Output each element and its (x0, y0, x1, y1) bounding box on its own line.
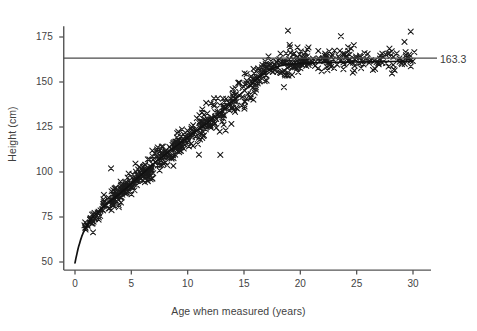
data-point-marker (278, 51, 283, 56)
data-point-marker (133, 161, 138, 166)
data-point-marker (295, 45, 300, 50)
data-point-marker (338, 34, 343, 39)
data-point-marker (91, 230, 96, 235)
x-tick-label: 30 (398, 278, 428, 289)
y-tick-label: 75 (23, 211, 53, 222)
data-point-marker (229, 121, 234, 126)
growth-curve-path (75, 61, 413, 263)
data-point-marker (109, 166, 114, 171)
data-point-marker (200, 107, 205, 112)
data-point-marker (223, 128, 228, 133)
x-tick-label: 20 (285, 278, 315, 289)
x-tick-label: 10 (173, 278, 203, 289)
data-point-marker (157, 168, 162, 173)
x-tick-label: 5 (116, 278, 146, 289)
data-point-marker (284, 51, 289, 56)
y-tick-label: 175 (23, 31, 53, 42)
x-tick-label: 0 (60, 278, 90, 289)
data-point-marker (319, 69, 324, 74)
data-point-marker (196, 152, 201, 157)
data-point-marker (218, 152, 223, 157)
y-tick-label: 150 (23, 76, 53, 87)
y-tick-label: 50 (23, 256, 53, 267)
data-point-marker (341, 67, 346, 72)
x-tick-label: 15 (229, 278, 259, 289)
growth-chart-figure: Height (cm) Age when measured (years) 16… (0, 0, 477, 331)
data-point-marker (386, 64, 391, 69)
data-point-marker (402, 39, 407, 44)
data-point-marker (204, 100, 209, 105)
axis-ticks (59, 37, 413, 275)
data-point-marker (175, 131, 180, 136)
y-tick-label: 125 (23, 121, 53, 132)
fitted-curve (75, 61, 413, 263)
data-point-marker (412, 50, 417, 55)
data-point-marker (316, 66, 321, 71)
data-point-marker (281, 85, 286, 90)
data-point-marker (211, 96, 216, 101)
data-point-marker (389, 71, 394, 76)
y-tick-label: 100 (23, 166, 53, 177)
data-point-marker (350, 70, 355, 75)
x-axis-title: Age when measured (years) (0, 305, 477, 317)
x-tick-label: 25 (342, 278, 372, 289)
reference-line-label: 163.3 (440, 53, 466, 65)
data-point-marker (195, 142, 200, 147)
data-point-marker (171, 163, 176, 168)
data-point-marker (316, 48, 321, 53)
y-axis-title: Height (cm) (6, 94, 18, 174)
data-point-marker (408, 29, 413, 34)
scatter-points (82, 28, 417, 235)
data-point-marker (285, 28, 290, 33)
data-point-marker (408, 64, 413, 69)
